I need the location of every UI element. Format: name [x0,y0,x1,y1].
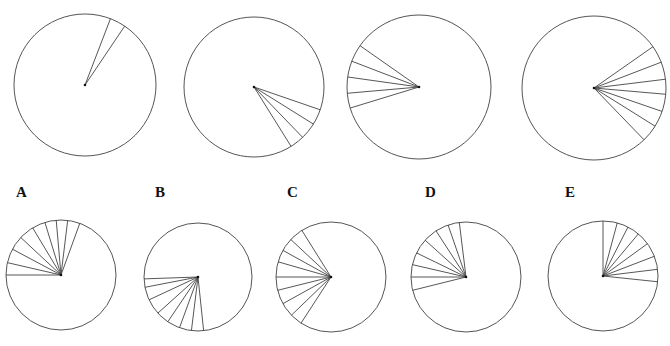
center-point [197,276,200,279]
radial-spoke [412,265,466,277]
radial-spoke [413,277,466,290]
center-point [465,276,468,279]
radial-spoke [594,88,662,111]
center-point [593,87,596,90]
option-circle-c [276,222,386,332]
center-point [602,275,605,278]
radial-spoke [254,87,291,146]
radial-spoke [603,227,628,276]
option-label-d: D [425,185,436,200]
option-circle-e [548,221,658,331]
center-point [330,276,333,279]
radial-spoke [594,88,644,140]
radial-spoke [278,277,331,290]
radial-spoke [352,61,419,87]
stimulus-circle-1 [14,14,156,156]
stimulus-circle-4 [522,16,666,160]
radial-spoke [7,263,61,275]
radial-spoke [254,87,313,124]
radial-spoke [85,19,110,85]
figure-canvas [0,0,670,346]
radial-spoke [594,88,655,126]
radial-spoke [85,26,125,85]
option-label-a: A [16,185,27,200]
radial-spoke [594,88,666,94]
center-point [60,274,63,277]
option-label-b: B [155,185,165,200]
radial-spoke [301,277,331,323]
radial-spoke [158,277,198,313]
radial-spoke [360,46,419,87]
radial-spoke [254,87,320,110]
center-point [84,84,87,87]
option-circle-d [411,222,521,332]
stimulus-circle-3 [347,15,491,159]
option-label-e: E [565,185,575,200]
figure: A B C D E [0,0,670,346]
radial-spoke [254,87,303,137]
radial-spoke [348,77,419,87]
stimulus-circle-2 [184,17,324,157]
option-label-c: C [287,185,298,200]
radial-spoke [198,277,204,331]
option-circle-a [6,220,116,330]
center-point [253,86,256,89]
radial-spoke [603,276,658,282]
option-circle-b [144,223,252,331]
center-point [418,86,421,89]
